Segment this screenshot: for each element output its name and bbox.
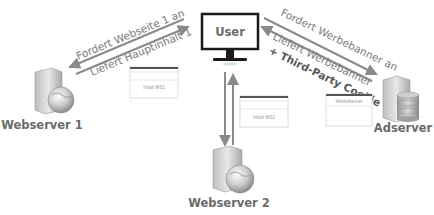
- user-monitor-icon: [202, 14, 258, 66]
- diagram: Fordert Webseite 1 an Liefert Hauptinhal…: [0, 0, 434, 215]
- content-box-ws1-label: Inhalt WS1: [143, 85, 166, 90]
- content-box-ws1: [130, 67, 178, 98]
- webserver2-icon: [213, 146, 254, 193]
- content-box-ws2-label: Inhalt WS2: [253, 115, 276, 120]
- content-box-ad-label: Werbebanner: [335, 99, 363, 104]
- node-adserver: Adserver: [374, 121, 433, 135]
- content-box-ws2: [240, 96, 288, 127]
- adserver-icon: [383, 76, 419, 122]
- node-webserver1: Webserver 1: [1, 118, 83, 132]
- node-webserver2: Webserver 2: [188, 196, 270, 210]
- diagram-canvas: Fordert Webseite 1 an Liefert Hauptinhal…: [0, 0, 434, 215]
- webserver1-icon: [35, 68, 74, 114]
- node-user: User: [215, 25, 245, 39]
